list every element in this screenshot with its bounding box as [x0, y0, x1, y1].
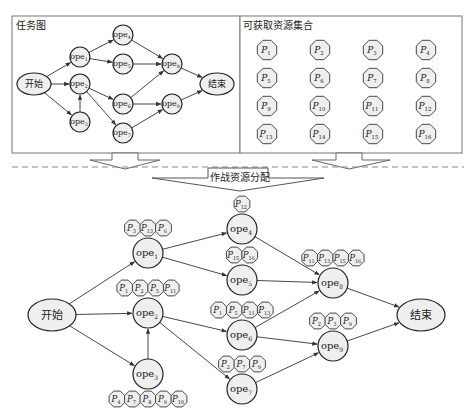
node-ope4: ope4	[113, 25, 133, 45]
resource-p9: P9	[250, 356, 266, 372]
svg-text:结束: 结束	[410, 309, 432, 322]
allocation-label: 作战资源分配	[210, 171, 270, 183]
edge-ope1-ope5	[162, 257, 226, 275]
node-ope1: ope1	[133, 238, 163, 268]
resource-p2: P2	[132, 280, 148, 296]
resource-p12: P12	[234, 196, 250, 212]
resource-p13: P13	[140, 220, 156, 236]
edge-ope1-ope4	[163, 233, 227, 249]
node-ope9: ope9	[318, 331, 348, 361]
edge-ope6-ope9	[257, 337, 317, 344]
resource-p7: P7	[363, 68, 382, 87]
node-ope5: ope5	[113, 54, 133, 74]
resource-p9: P9	[257, 96, 276, 115]
resource-p11: P11	[242, 302, 258, 318]
svg-text:开始: 开始	[41, 308, 63, 322]
resource-p13: P13	[257, 302, 273, 318]
node-ope7: ope7	[227, 374, 257, 404]
edge-ope8-end	[347, 288, 399, 307]
resource-p13: P13	[257, 124, 276, 143]
resource-p6: P6	[156, 220, 172, 236]
resource-p2: P2	[310, 313, 326, 329]
resources-ope3: P4P7P8P9P10	[109, 391, 187, 407]
resource-p3: P3	[325, 313, 341, 329]
resources-ope6: P1P5P11P13	[211, 302, 273, 318]
resource-p3: P3	[125, 220, 141, 236]
edge-ope2-ope7	[160, 322, 230, 379]
task-graph-title: 任务图	[16, 19, 46, 31]
node-ope2: ope2	[133, 298, 163, 328]
resource-p10: P10	[310, 96, 329, 115]
edge-ope5-ope8	[257, 280, 317, 282]
resource-p4: P4	[416, 40, 435, 59]
resource-allocation-diagram: 任务图 可获取资源集合 开始ope1ope2ope3ope4ope5ope6op…	[0, 0, 472, 417]
resource-p5: P5	[148, 280, 164, 296]
resource-p10: P10	[171, 391, 187, 407]
node-ope6: ope6	[227, 320, 257, 350]
resources-ope4: P12	[234, 196, 250, 212]
resource-p15: P15	[363, 124, 382, 143]
resource-p11: P11	[302, 250, 318, 266]
node-ope4: ope4	[227, 214, 257, 244]
resource-p16: P16	[416, 124, 435, 143]
edge-ope2-ope6	[163, 316, 227, 331]
resource-p13: P13	[317, 250, 333, 266]
node-end: 结束	[397, 299, 445, 331]
node-ope1: ope1	[70, 47, 90, 67]
resource-p11: P11	[363, 96, 382, 115]
resource-p7: P7	[125, 391, 141, 407]
resource-p14: P14	[310, 124, 329, 143]
resources-ope8: P11P13P15P16	[302, 250, 364, 266]
edge-start-ope3	[70, 326, 135, 366]
resource-p12: P12	[416, 96, 435, 115]
resource-p15: P15	[226, 247, 242, 263]
resource-p1: P1	[257, 40, 276, 59]
node-end: 结束	[200, 73, 234, 95]
node-ope8: ope8	[162, 54, 182, 74]
resource-p7: P7	[234, 356, 250, 372]
svg-text:开始: 开始	[25, 78, 43, 89]
resource-p3: P3	[363, 40, 382, 59]
resource-p15: P15	[333, 250, 349, 266]
svg-text:结束: 结束	[208, 78, 226, 89]
resource-p8: P8	[416, 68, 435, 87]
resource-p16: P16	[348, 250, 364, 266]
resources-ope9: P2P3P9	[310, 313, 357, 329]
resource-p4: P4	[109, 391, 125, 407]
node-ope5: ope5	[227, 265, 257, 295]
resources-ope5: P15P16	[226, 247, 257, 263]
resource-p9: P9	[341, 313, 357, 329]
edge-start-ope2	[76, 313, 132, 314]
node-ope9: ope9	[162, 94, 182, 114]
resource-p1: P1	[211, 302, 227, 318]
resource-p5: P5	[257, 68, 276, 87]
resource-p5: P5	[226, 302, 242, 318]
resource-p2: P2	[310, 40, 329, 59]
resource-p11: P11	[163, 280, 179, 296]
node-ope8: ope8	[318, 268, 348, 298]
resource-p8: P8	[140, 391, 156, 407]
node-ope6: ope6	[113, 94, 133, 114]
node-ope3: ope3	[70, 112, 90, 132]
node-start: 开始	[28, 299, 76, 331]
resources-ope7: P2P7P9	[219, 356, 266, 372]
node-ope2: ope2	[70, 74, 90, 94]
resource-p6: P6	[310, 68, 329, 87]
resource-p2: P2	[219, 356, 235, 372]
resource-p1: P1	[117, 280, 133, 296]
resources-ope1: P3P13P6	[125, 220, 172, 236]
node-start: 开始	[17, 73, 51, 95]
node-ope3: ope3	[133, 359, 163, 389]
resource-set-title: 可获取资源集合	[243, 19, 313, 31]
node-ope7: ope7	[113, 123, 133, 143]
resource-p9: P9	[156, 391, 172, 407]
resource-p16: P16	[242, 247, 258, 263]
resources-ope2: P1P2P5P11	[117, 280, 179, 296]
